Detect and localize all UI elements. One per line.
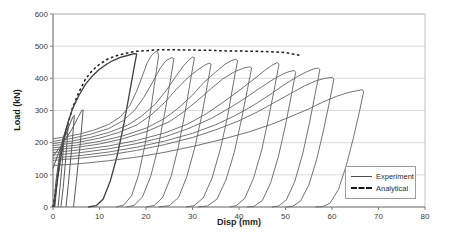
y-tick-label: 300 [35, 106, 49, 115]
chart-container: 010020030040050060001020304050607080 Loa… [0, 0, 451, 248]
y-tick-label: 600 [35, 10, 49, 19]
legend-label-experiment: Experiment [376, 173, 414, 181]
y-tick-label: 400 [35, 74, 49, 83]
legend-entry-analytical: Analytical [351, 185, 413, 193]
x-tick-label: 0 [51, 212, 56, 221]
y-axis-title: Load (kN) [12, 89, 22, 131]
legend-label-analytical: Analytical [376, 185, 408, 193]
experiment-line-icon [351, 176, 372, 177]
x-tick-label: 30 [188, 212, 197, 221]
series-experiment-cycle-3 [53, 58, 174, 207]
x-tick-label: 60 [328, 212, 337, 221]
y-tick-label: 500 [35, 42, 49, 51]
legend: Experiment Analytical [345, 166, 416, 199]
x-tick-label: 80 [421, 212, 430, 221]
x-tick-label: 70 [374, 212, 383, 221]
series-experiment-cycle-10 [53, 68, 320, 207]
series-experiment-cycle-4 [53, 57, 194, 207]
x-tick-label: 10 [95, 212, 104, 221]
y-tick-label: 0 [44, 203, 49, 212]
chart-canvas: 010020030040050060001020304050607080 [0, 0, 451, 248]
y-tick-label: 200 [35, 138, 49, 147]
legend-entry-experiment: Experiment [351, 173, 413, 181]
y-tick-label: 100 [35, 171, 49, 180]
x-tick-label: 20 [142, 212, 151, 221]
x-axis-title: Disp (mm) [217, 217, 261, 227]
x-tick-label: 50 [281, 212, 290, 221]
series-experiment-cycle-12 [53, 90, 364, 207]
analytical-line-icon [351, 187, 372, 189]
